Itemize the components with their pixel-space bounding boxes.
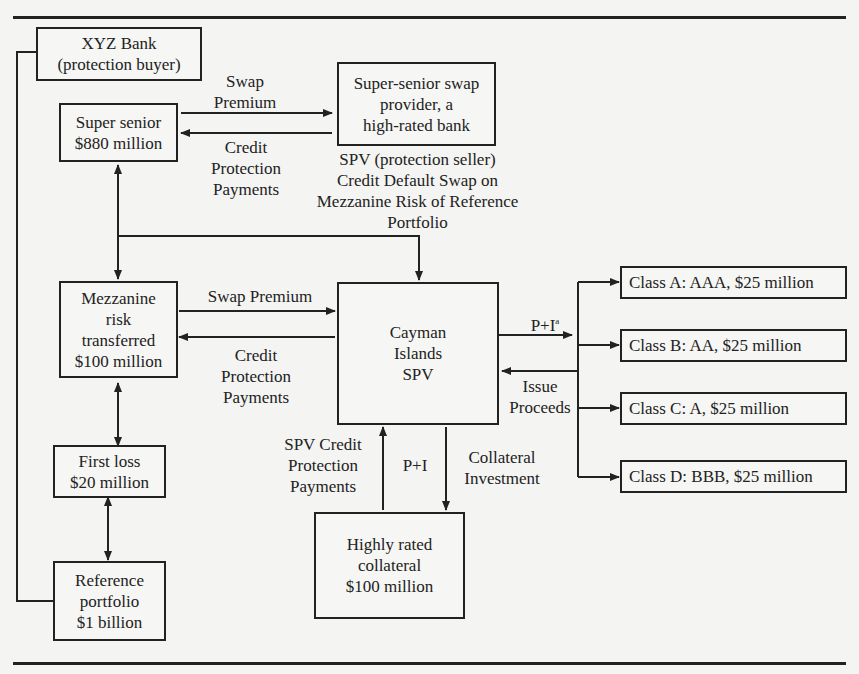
first-loss-label: First loss $20 million [70, 451, 149, 493]
issue-proceeds-label: Issue Proceeds [500, 376, 580, 418]
class-d-box: Class D: BBB, $25 million [620, 460, 847, 493]
swap-premium-mid-label: Swap Premium [190, 286, 330, 307]
swap-premium-top-label: Swap Premium [200, 71, 290, 113]
credit-protection-mid-label: Credit Protection Payments [208, 345, 304, 408]
cayman-spv-label: Cayman Islands SPV [390, 322, 447, 385]
class-a-box: Class A: AAA, $25 million [620, 266, 847, 299]
credit-protection-top-label: Credit Protection Payments [198, 137, 294, 200]
mezzanine-label: Mezzanine risk transferred $100 million [75, 288, 162, 372]
spv-credit-protection-label: SPV Credit Protection Payments [268, 434, 378, 497]
reference-portfolio-box: Reference portfolio $1 billion [53, 561, 166, 641]
class-b-label: Class B: AA, $25 million [629, 335, 801, 356]
reference-portfolio-label: Reference portfolio $1 billion [75, 570, 144, 633]
spv-cds-note-label: SPV (protection seller) Credit Default S… [300, 149, 535, 233]
cayman-spv-box: Cayman Islands SPV [337, 282, 499, 425]
first-loss-box: First loss $20 million [53, 445, 166, 498]
class-b-box: Class B: AA, $25 million [620, 329, 847, 362]
xyz-bank-label: XYZ Bank (protection buyer) [57, 33, 180, 75]
mezzanine-box: Mezzanine risk transferred $100 million [59, 281, 178, 378]
collateral-box: Highly rated collateral $100 million [314, 512, 465, 619]
class-a-label: Class A: AAA, $25 million [629, 272, 814, 293]
class-c-box: Class C: A, $25 million [620, 392, 847, 425]
super-senior-label: Super senior $880 million [75, 112, 162, 154]
collateral-label: Highly rated collateral $100 million [346, 534, 433, 597]
footnote-marker: a [555, 316, 559, 326]
class-c-label: Class C: A, $25 million [629, 398, 789, 419]
p-plus-i-a-text: P+I [531, 316, 556, 335]
super-senior-provider-box: Super-senior swap provider, a high-rated… [337, 62, 496, 146]
p-plus-i-label: P+I [392, 455, 438, 476]
p-plus-i-a-label: P+Ia [520, 311, 570, 336]
super-senior-box: Super senior $880 million [59, 103, 178, 162]
super-senior-provider-label: Super-senior swap provider, a high-rated… [354, 73, 480, 136]
class-d-label: Class D: BBB, $25 million [629, 466, 813, 487]
xyz-bank-box: XYZ Bank (protection buyer) [36, 27, 202, 81]
collateral-investment-label: Collateral Investment [452, 447, 552, 489]
